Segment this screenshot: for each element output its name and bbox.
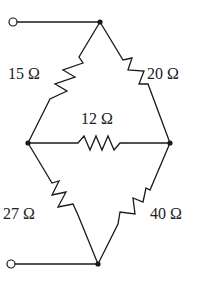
bottom-terminal[interactable] — [7, 260, 15, 268]
label-15-ohm: 15 Ω — [8, 65, 40, 82]
resistor-27-ohm — [28, 143, 98, 264]
circuit-diagram: 15 Ω 20 Ω 12 Ω 27 Ω 40 Ω — [0, 0, 200, 283]
resistor-12-ohm — [28, 136, 170, 150]
resistor-40-ohm — [98, 143, 170, 264]
bottom-node — [95, 261, 100, 266]
top-terminal[interactable] — [9, 18, 17, 26]
label-12-ohm: 12 Ω — [81, 110, 113, 127]
label-27-ohm: 27 Ω — [3, 205, 35, 222]
label-40-ohm: 40 Ω — [150, 205, 182, 222]
label-20-ohm: 20 Ω — [147, 65, 179, 82]
